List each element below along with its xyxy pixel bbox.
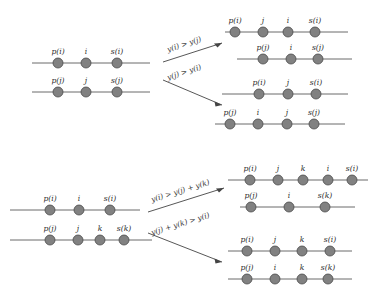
node-label: i (287, 16, 290, 25)
node-label: j (260, 16, 265, 25)
node-label: k (301, 164, 306, 173)
node-label: p(i) (243, 164, 256, 173)
node-label: s(i) (104, 194, 116, 203)
list-node (270, 274, 280, 284)
list-node (273, 175, 283, 185)
list-node (258, 27, 268, 37)
list-node (297, 246, 307, 256)
bot-branch-2-arrow: y(j) + y(k) > y(i) (148, 211, 222, 264)
bot-b2-line-1: p(i) j k s(i) (228, 235, 352, 256)
node-label: i (327, 164, 330, 173)
condition-label: y(i) > y(j) + y(k) (149, 178, 211, 205)
node-label: s(i) (309, 16, 321, 25)
list-node (258, 54, 268, 64)
list-node (112, 58, 122, 68)
bot-branch-1-arrow: y(i) > y(j) + y(k) (148, 178, 224, 212)
node-label: p(j) (244, 191, 257, 200)
top-b1-line-1: p(i) j i s(i) (225, 16, 348, 37)
top-branch-1-arrow: y(i) > y(j) (163, 34, 222, 62)
list-node (253, 119, 263, 129)
node-label: s(j) (312, 43, 324, 52)
arrow-head (215, 259, 223, 264)
list-node (297, 274, 307, 284)
node-label: j (275, 164, 280, 173)
node-label: p(i) (252, 78, 265, 87)
node-label: s(k) (117, 224, 131, 233)
node-label: s(i) (346, 164, 358, 173)
node-label: p(j) (256, 43, 269, 52)
list-node (246, 202, 256, 212)
top-src-line-1: p(i) i s(i) (32, 47, 150, 68)
node-label: k (300, 263, 305, 272)
bottom-group: p(i) i s(i) p(j) j k s(k) y(i) > y(j) + … (10, 164, 368, 284)
node-label: s(j) (308, 108, 320, 117)
condition-label: y(j) > y(i) (165, 62, 203, 82)
list-node (283, 27, 293, 37)
node-label: p(j) (51, 76, 64, 85)
list-node (73, 235, 83, 245)
list-node (313, 54, 323, 64)
list-node (53, 87, 63, 97)
list-node (242, 246, 252, 256)
node-label: p(j) (43, 224, 56, 233)
list-node (282, 119, 292, 129)
top-group: p(i) i s(i) p(j) j s(j) y(i) > y(j) y(j)… (32, 16, 352, 129)
list-node (119, 235, 129, 245)
node-label: j (284, 108, 289, 117)
node-label: j (75, 224, 80, 233)
node-label: j (285, 78, 290, 87)
list-node (112, 87, 122, 97)
list-node (311, 89, 321, 99)
node-label: p(j) (240, 263, 253, 272)
list-node (245, 175, 255, 185)
top-b2-line-1: p(i) j s(i) (222, 78, 348, 99)
node-label: k (98, 224, 103, 233)
node-label: s(i) (111, 47, 123, 56)
list-node (347, 175, 357, 185)
bot-b2-line-2: p(j) i k s(k) (228, 263, 352, 284)
node-label: p(i) (51, 47, 64, 56)
top-src-line-2: p(j) j s(j) (32, 76, 150, 97)
list-transformation-diagram: p(i) i s(i) p(j) j s(j) y(i) > y(j) y(j)… (0, 0, 382, 294)
node-label: s(i) (324, 235, 336, 244)
node-label: s(k) (318, 191, 332, 200)
list-node (298, 175, 308, 185)
node-label: i (257, 108, 260, 117)
list-node (45, 205, 55, 215)
list-node (310, 27, 320, 37)
list-node (323, 274, 333, 284)
node-label: s(j) (111, 76, 123, 85)
top-b2-line-2: p(j) i j s(j) (215, 108, 345, 129)
list-node (95, 235, 105, 245)
node-label: p(i) (228, 16, 241, 25)
list-node (323, 175, 333, 185)
top-branch-2-arrow: y(j) > y(i) (163, 62, 222, 106)
node-label: p(i) (240, 235, 253, 244)
node-label: i (274, 263, 277, 272)
list-node (286, 54, 296, 64)
bot-b1-line-2: p(j) i s(k) (240, 191, 355, 212)
list-node (283, 89, 293, 99)
node-label: i (78, 194, 81, 203)
node-label: s(i) (310, 78, 322, 87)
list-node (45, 235, 55, 245)
top-b1-line-2: p(j) i s(j) (237, 43, 352, 64)
list-node (105, 205, 115, 215)
list-node (74, 205, 84, 215)
list-node (225, 119, 235, 129)
list-node (325, 246, 335, 256)
list-node (284, 202, 294, 212)
arrow-head (215, 102, 223, 107)
node-label: i (85, 47, 88, 56)
list-node (254, 89, 264, 99)
node-label: p(i) (43, 194, 56, 203)
list-node (81, 87, 91, 97)
list-node (53, 58, 63, 68)
list-node (81, 58, 91, 68)
condition-label: y(j) + y(k) > y(i) (149, 211, 211, 238)
node-label: j (83, 76, 88, 85)
list-node (309, 119, 319, 129)
node-label: i (290, 43, 293, 52)
node-label: j (272, 235, 277, 244)
list-node (230, 27, 240, 37)
